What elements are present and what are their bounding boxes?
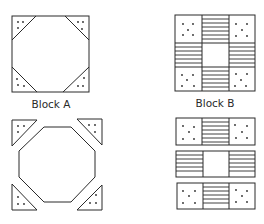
corner-seam-bl — [12, 67, 37, 92]
triangle-br — [77, 185, 102, 210]
row-bottom — [177, 183, 255, 209]
triangle-bl — [12, 184, 37, 210]
block-b-label: Block B — [196, 97, 235, 109]
block-b-exploded — [176, 118, 255, 209]
block-a-assembled — [12, 16, 89, 92]
triangle-tl — [12, 120, 37, 146]
triangle-tr — [77, 119, 102, 145]
block-a-label: Block A — [32, 98, 71, 110]
row-top — [176, 118, 255, 145]
corner-seam-br — [63, 67, 89, 92]
block-b-assembled — [175, 15, 255, 91]
block-a-exploded — [12, 119, 102, 210]
quilt-blocks-diagram — [0, 0, 264, 224]
row-middle — [176, 151, 255, 177]
octagon-center — [19, 127, 95, 202]
corner-seam-tr — [65, 16, 89, 40]
corner-seam-tl — [12, 16, 36, 40]
block-a-outline — [12, 16, 89, 92]
